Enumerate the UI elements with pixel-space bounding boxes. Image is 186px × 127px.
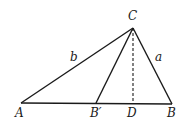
label-point-a: A [14, 106, 24, 120]
label-side-b: b [70, 50, 78, 64]
label-point-b-prime: B′ [89, 106, 102, 120]
label-point-d: D [126, 106, 137, 120]
label-point-c: C [128, 9, 137, 23]
segment-ac [21, 28, 133, 103]
segment-cb [133, 28, 172, 104]
segment-cb-prime [96, 28, 133, 103]
label-point-b: B [166, 106, 176, 120]
label-side-a: a [155, 50, 162, 64]
triangle-diagram: C A B′ D B b a [0, 0, 186, 127]
